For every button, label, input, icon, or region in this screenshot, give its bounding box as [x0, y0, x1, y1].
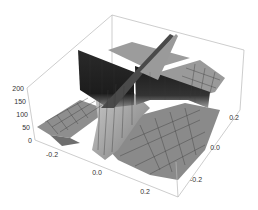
x-tick-neg0.2: -0.2	[46, 151, 58, 158]
z-axis: 200 150 100 50 0	[12, 85, 32, 144]
surface-plot: 200 150 100 50 0 -0.2 0.0 0.2 -0.2 0.0 0…	[0, 0, 258, 210]
y-tick-0.0: 0.0	[210, 144, 220, 151]
y-tick-0.2: 0.2	[229, 114, 239, 121]
z-tick-150: 150	[14, 98, 26, 105]
z-tick-0: 0	[28, 137, 32, 144]
surface	[37, 34, 225, 180]
x-tick-0.0: 0.0	[92, 169, 102, 176]
y-tick-neg0.2: -0.2	[190, 176, 202, 183]
x-tick-0.2: 0.2	[140, 188, 150, 195]
z-tick-100: 100	[16, 111, 28, 118]
z-tick-200: 200	[12, 85, 24, 92]
z-tick-50: 50	[22, 124, 30, 131]
